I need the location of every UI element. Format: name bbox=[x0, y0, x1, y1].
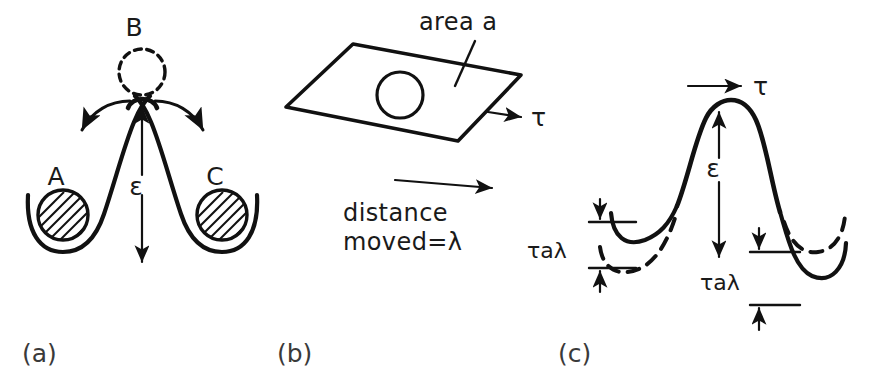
panel-a-right-spread-arrow bbox=[155, 101, 203, 130]
panel-b-parallelogram bbox=[286, 44, 521, 141]
panel-c-dashed-right-well bbox=[784, 216, 845, 252]
panel-a-atom-b-dashed-circle bbox=[119, 49, 165, 95]
panel-a-caption: (a) bbox=[22, 339, 57, 368]
panel-c-work-right-label: τaλ bbox=[700, 270, 740, 295]
panel-c-tau-label: τ bbox=[753, 72, 768, 101]
panel-a: B A C ε (a) bbox=[22, 13, 257, 368]
panel-b-area-circle bbox=[377, 72, 423, 118]
panel-b-tau-arrow bbox=[488, 112, 521, 117]
panel-a-label-b: B bbox=[125, 13, 142, 42]
panel-b-caption: (b) bbox=[277, 339, 312, 368]
panel-b-area-label: area a bbox=[419, 8, 497, 36]
figure-svg: B A C ε (a) area a τ distance moved=λ (b… bbox=[0, 0, 873, 387]
panel-b-distance-line-2: moved=λ bbox=[343, 228, 462, 256]
panel-c-epsilon-label: ε bbox=[706, 154, 720, 183]
panel-c-solid-right-well bbox=[780, 212, 846, 278]
panel-b: area a τ distance moved=λ (b) bbox=[277, 8, 546, 368]
panel-a-label-a: A bbox=[47, 162, 64, 191]
panel-c-work-left-label: τaλ bbox=[527, 238, 567, 263]
panel-b-tau-label: τ bbox=[531, 103, 546, 132]
panel-b-distance-line-1: distance bbox=[343, 199, 448, 227]
panel-a-label-c: C bbox=[206, 162, 223, 191]
figure-root: B A C ε (a) area a τ distance moved=λ (b… bbox=[0, 0, 873, 387]
panel-c-solid-barrier bbox=[677, 100, 780, 212]
panel-a-label-epsilon: ε bbox=[129, 172, 143, 201]
panel-b-motion-arrow bbox=[395, 180, 492, 188]
panel-c: τ ε τaλ τaλ (c) bbox=[527, 72, 846, 368]
panel-a-left-spread-arrow bbox=[82, 101, 130, 130]
panel-c-caption: (c) bbox=[558, 339, 591, 368]
